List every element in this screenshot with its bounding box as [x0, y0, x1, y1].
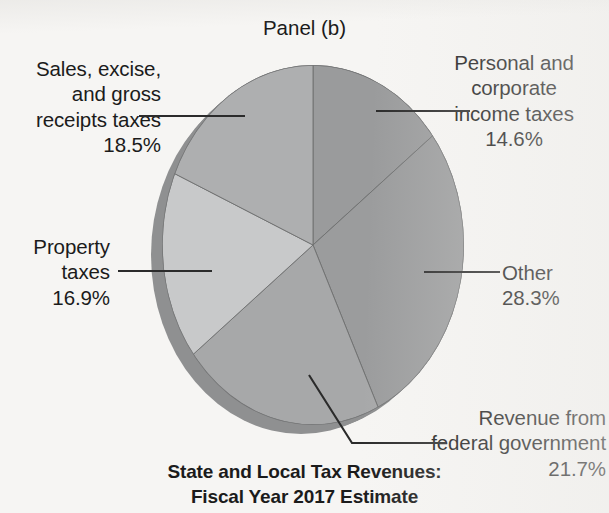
leader-lines [0, 0, 609, 513]
leader-line-federal [309, 375, 446, 443]
pie-chart-figure: Personal and corporate income taxes — 14… [0, 0, 609, 513]
